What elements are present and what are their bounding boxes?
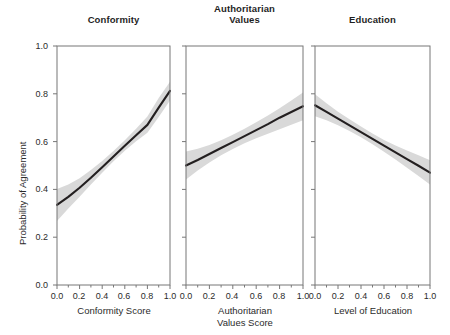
panel-1-plot (53, 46, 170, 289)
panel-2-plot (182, 46, 303, 289)
panel-frame (57, 46, 170, 285)
confidence-band (57, 82, 170, 221)
fitted-line (186, 106, 303, 165)
fitted-line (315, 105, 430, 172)
plot-canvas (0, 0, 450, 335)
panel-3-plot (311, 46, 430, 289)
figure-panel-container: Conformity Authoritarian Values Educatio… (0, 0, 450, 335)
